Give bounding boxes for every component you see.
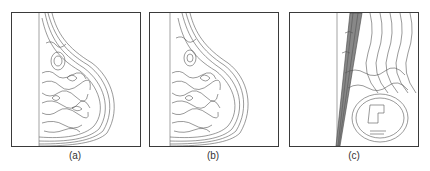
contour-image-c bbox=[290, 13, 418, 146]
contour-image-b bbox=[150, 13, 278, 146]
contour-image-a bbox=[12, 13, 140, 146]
caption-c: (c) bbox=[289, 150, 419, 161]
caption-b: (b) bbox=[148, 150, 278, 161]
panel-a bbox=[11, 12, 141, 147]
caption-a: (a) bbox=[10, 150, 140, 161]
panel-c bbox=[289, 12, 419, 147]
panel-b bbox=[149, 12, 279, 147]
